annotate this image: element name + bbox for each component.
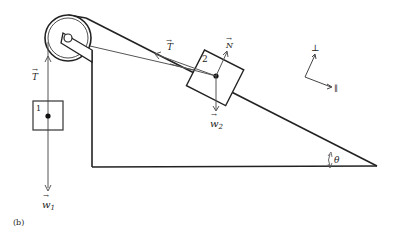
- block-1-center-dot: [45, 113, 50, 118]
- vector-arrow-icon: →: [226, 35, 232, 43]
- incline-pulley-diagram: T → 1 w1 → 2 T → N → w2 → ⊥ ∥ θ (b): [0, 0, 399, 232]
- weight1-label: w1: [42, 199, 55, 212]
- block-1-label: 1: [36, 104, 41, 113]
- coordinate-axes: [305, 54, 332, 89]
- vector-arrow-icon: →: [211, 111, 217, 119]
- pulley-axle-icon: [64, 34, 72, 42]
- block-2-label: 2: [202, 54, 208, 64]
- pulley: [45, 15, 92, 62]
- perp-axis-label: ⊥: [311, 43, 319, 53]
- vector-arrow-icon: →: [32, 66, 38, 74]
- ramp-base: [92, 166, 377, 167]
- vector-arrow-icon: →: [43, 192, 49, 200]
- parallel-axis-label: ∥: [334, 84, 338, 93]
- weight2-label: w2: [210, 118, 224, 131]
- panel-label: (b): [13, 218, 24, 227]
- vector-arrow-icon: →: [166, 37, 172, 45]
- angle-arc: [329, 154, 331, 166]
- angle-label: θ: [334, 155, 340, 165]
